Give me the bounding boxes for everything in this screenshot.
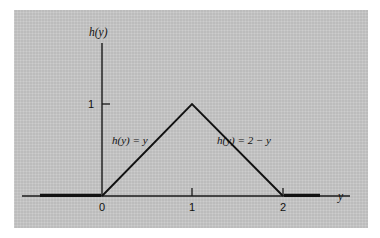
figure-root: 1 0 1 2 h(y) y h(y) = y h(y) = 2 − y <box>0 0 380 238</box>
left-branch-equation: h(y) = y <box>112 134 148 147</box>
triangular-density-chart: 1 0 1 2 h(y) y h(y) = y h(y) = 2 − y <box>0 0 380 238</box>
right-branch-equation: h(y) = 2 − y <box>217 134 271 147</box>
x-tick-label-1: 1 <box>189 201 195 213</box>
y-tick-label-1: 1 <box>88 98 94 110</box>
x-axis-title: y <box>337 190 344 203</box>
triangle-density-curve <box>102 104 283 196</box>
x-tick-label-0: 0 <box>99 201 105 213</box>
y-axis-title: h(y) <box>89 26 108 39</box>
x-tick-label-2: 2 <box>280 201 286 213</box>
